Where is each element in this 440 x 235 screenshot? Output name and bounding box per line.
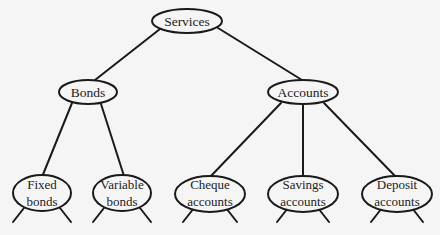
node-label-line1: Fixed <box>27 177 57 192</box>
node-label-line2: bonds <box>26 194 57 209</box>
node-savings-accounts: Savings accounts <box>268 176 338 212</box>
edge-accounts-deposit <box>324 103 396 177</box>
tree-svg: Services Bonds Accounts Fixed bonds Vari… <box>0 0 440 235</box>
node-label-line1: Cheque <box>190 177 230 192</box>
edge-services-accounts <box>218 28 302 80</box>
stub-variable-left <box>93 208 104 222</box>
stub-fixed-right <box>60 208 71 222</box>
node-label-line1: Savings <box>282 177 323 192</box>
edge-bonds-fixed <box>42 103 72 177</box>
node-label-line1: Deposit <box>377 177 418 192</box>
node-variable-bonds: Variable bonds <box>93 175 151 211</box>
node-bonds: Bonds <box>59 80 117 104</box>
node-label: Accounts <box>278 85 329 100</box>
node-label-line2: accounts <box>187 194 232 209</box>
node-cheque-accounts: Cheque accounts <box>175 176 245 212</box>
edge-services-bonds <box>95 29 160 80</box>
node-label-line2: bonds <box>106 194 137 209</box>
node-label-line1: Variable <box>100 177 144 192</box>
stub-fixed-left <box>13 208 24 222</box>
edge-accounts-cheque <box>210 103 281 177</box>
node-services: Services <box>152 9 222 33</box>
node-accounts: Accounts <box>268 80 338 104</box>
node-deposit-accounts: Deposit accounts <box>362 176 432 212</box>
edge-bonds-variable <box>101 104 124 176</box>
node-label-line2: accounts <box>374 194 419 209</box>
stub-variable-right <box>140 208 151 222</box>
tree-diagram: Services Bonds Accounts Fixed bonds Vari… <box>0 0 440 235</box>
nodes: Services Bonds Accounts Fixed bonds Vari… <box>13 9 432 212</box>
node-label-line2: accounts <box>280 194 325 209</box>
node-label: Services <box>164 14 210 29</box>
node-label: Bonds <box>71 85 106 100</box>
node-fixed-bonds: Fixed bonds <box>13 175 71 211</box>
